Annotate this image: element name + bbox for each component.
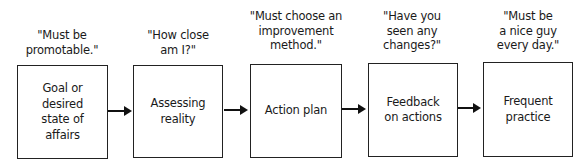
arrow-right-icon xyxy=(108,110,130,112)
step-1-label: Goal or desired state of affairs xyxy=(41,81,83,143)
arrow-right-icon xyxy=(458,107,479,109)
arrow-right-icon xyxy=(342,108,364,110)
step-2-box: Assessing reality xyxy=(133,65,223,158)
step-2-label: Assessing reality xyxy=(151,96,206,127)
step-3-label: Action plan xyxy=(265,103,327,119)
step-5-quote: "Must be a nice guy every day." xyxy=(478,9,578,53)
step-5-label: Frequent practice xyxy=(503,94,552,125)
step-5-box: Frequent practice xyxy=(483,62,573,157)
step-2-quote: "How close am I?" xyxy=(126,28,230,57)
step-4-box: Feedback on actions xyxy=(368,63,458,157)
step-3-quote: "Must choose an improvement method." xyxy=(240,9,352,53)
arrow-right-icon xyxy=(224,109,246,111)
step-4-label: Feedback on actions xyxy=(384,95,441,126)
step-3-box: Action plan xyxy=(250,64,342,158)
step-1-box: Goal or desired state of affairs xyxy=(17,65,108,159)
step-1-quote: "Must be promotable." xyxy=(10,28,114,57)
step-4-quote: "Have you seen any changes?" xyxy=(362,9,462,53)
